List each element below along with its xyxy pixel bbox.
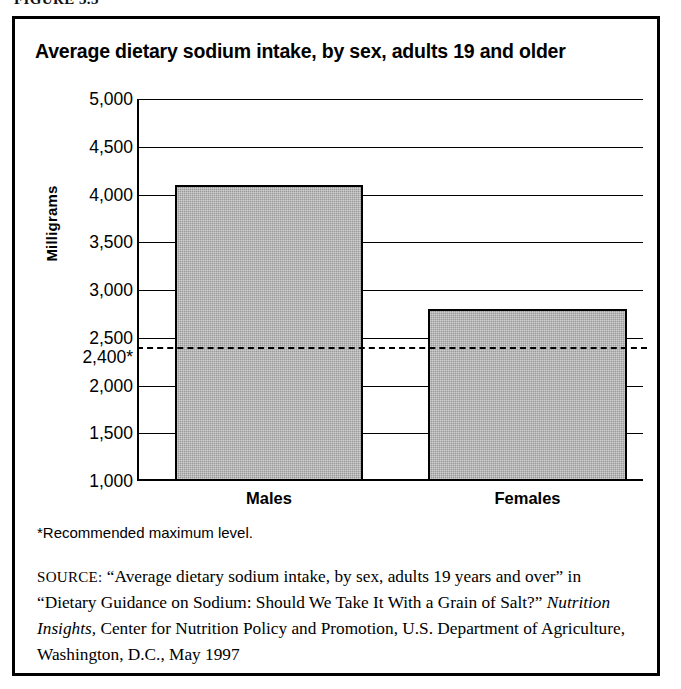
y-tick-2500: 2,500 bbox=[41, 329, 133, 346]
source-text-part1: “Average dietary sodium intake, by sex, … bbox=[37, 567, 581, 612]
reference-line-2400 bbox=[137, 347, 647, 349]
y-tick-5000: 5,000 bbox=[41, 91, 133, 108]
y-tick-2000: 2,000 bbox=[41, 377, 133, 394]
bar-males bbox=[175, 185, 363, 481]
source-text-part2: Center for Nutrition Policy and Promotio… bbox=[37, 619, 625, 664]
y-tick-2400-reference: 2,400* bbox=[41, 348, 133, 365]
bar-females bbox=[428, 309, 627, 481]
y-tick-1500: 1,500 bbox=[41, 425, 133, 442]
y-tick-1000: 1,000 bbox=[41, 473, 133, 490]
gridline-4500 bbox=[137, 147, 643, 148]
figure-caption: FIGURE 3.3 bbox=[14, 0, 99, 8]
x-label-males: Males bbox=[175, 489, 363, 508]
plot-area bbox=[137, 99, 643, 481]
chart-title: Average dietary sodium intake, by sex, a… bbox=[35, 39, 645, 63]
source-note: SOURCE: “Average dietary sodium intake, … bbox=[37, 564, 637, 668]
figure-frame: Average dietary sodium intake, by sex, a… bbox=[12, 16, 660, 676]
source-label: SOURCE: bbox=[37, 569, 102, 585]
footnote: *Recommended maximum level. bbox=[37, 524, 253, 541]
y-axis-title: Milligrams bbox=[43, 154, 60, 294]
x-label-females: Females bbox=[428, 489, 627, 508]
gridline-5000 bbox=[137, 99, 643, 100]
